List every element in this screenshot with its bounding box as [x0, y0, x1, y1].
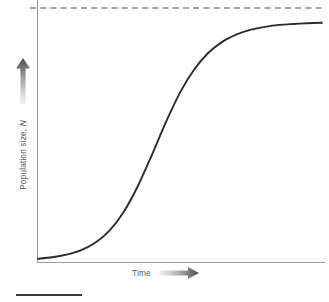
plot-area — [0, 0, 329, 302]
logistic-growth-figure: Population size, N Time — [0, 0, 329, 302]
right-arrow-gradient-icon — [159, 267, 199, 279]
x-axis-label-group: Time — [132, 266, 232, 280]
y-axis-label: Population size, N — [18, 92, 28, 218]
y-axis-label-main: Population size, — [18, 129, 28, 190]
x-axis-label: Time — [132, 268, 151, 278]
logistic-growth-curve — [38, 23, 322, 259]
y-axis-label-group: Population size, N — [12, 58, 34, 210]
bottom-rule — [16, 294, 82, 296]
y-axis-label-symbol: N — [18, 120, 28, 126]
